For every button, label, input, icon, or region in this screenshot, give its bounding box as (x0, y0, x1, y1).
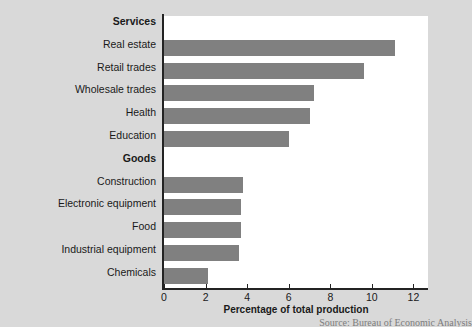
x-tick-mark (413, 284, 414, 290)
x-tick-label: 4 (235, 291, 259, 303)
x-tick-mark (372, 284, 373, 290)
x-axis-ticks-layer: 024681012 (0, 0, 472, 327)
x-tick-label: 12 (401, 291, 425, 303)
x-tick-mark (330, 284, 331, 290)
x-axis-title: Percentage of total production (164, 304, 428, 316)
x-tick-label: 8 (318, 291, 342, 303)
source-note: Source: Bureau of Economic Analysis (230, 317, 472, 327)
x-tick-label: 10 (360, 291, 384, 303)
x-tick-label: 2 (194, 291, 218, 303)
x-tick-mark (164, 284, 165, 290)
x-tick-mark (289, 284, 290, 290)
x-tick-label: 6 (277, 291, 301, 303)
x-tick-label: 0 (152, 291, 176, 303)
x-tick-mark (206, 284, 207, 290)
x-tick-mark (247, 284, 248, 290)
bar-chart-figure: ServicesReal estateRetail tradesWholesal… (0, 0, 472, 327)
